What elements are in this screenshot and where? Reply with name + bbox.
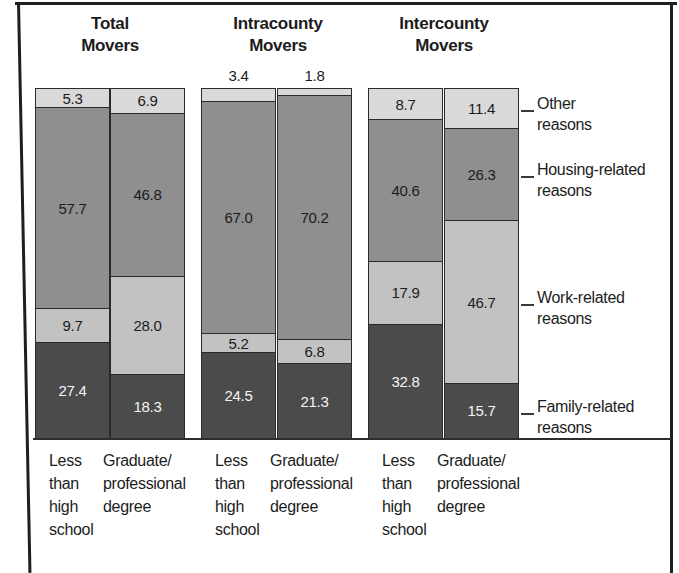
segment-value-label-above-bar: 1.8: [277, 67, 352, 84]
bar-segment: 17.9: [368, 261, 443, 325]
stacked-bar: 6.946.828.018.3: [110, 88, 185, 439]
segment-value-label: 6.9: [138, 93, 158, 108]
stacked-bar: 67.05.224.5: [201, 88, 276, 439]
x-axis-category-label: Less than high school: [215, 449, 259, 541]
bar-segment: 46.8: [110, 113, 185, 277]
stacked-bar: 11.426.346.715.7: [444, 88, 519, 439]
bar-segment: 57.7: [35, 107, 110, 308]
segment-value-label: 67.0: [225, 210, 253, 225]
segment-value-label: 9.7: [63, 318, 83, 333]
bar-segment: 5.3: [35, 88, 110, 108]
segment-value-label: 28.0: [134, 318, 162, 333]
frame-left-border: [17, 2, 31, 573]
frame-right-border: [670, 2, 673, 573]
segment-value-label: 5.2: [229, 336, 249, 351]
segment-value-label: 27.4: [59, 383, 87, 398]
segment-value-label: 6.8: [305, 344, 325, 359]
legend-tick: [521, 413, 534, 415]
bar-segment: 70.2: [277, 95, 352, 340]
bar-segment: 27.4: [35, 342, 110, 439]
bar-segment: 8.7: [368, 88, 443, 120]
bar-segment: 9.7: [35, 308, 110, 344]
bar-segment: 40.6: [368, 119, 443, 261]
legend-label: Work-related reasons: [537, 287, 625, 329]
bar-segment: 26.3: [444, 128, 519, 221]
segment-value-label: 46.7: [468, 295, 496, 310]
figure: Total Movers Intracounty Movers Intercou…: [0, 0, 679, 573]
segment-value-label: 5.3: [63, 91, 83, 106]
bar-segment: 32.8: [368, 324, 443, 439]
bar-segment: 24.5: [201, 352, 276, 439]
x-axis-category-label: Graduate/ professional degree: [103, 449, 186, 518]
legend-tick: [521, 176, 534, 178]
segment-value-label: 17.9: [392, 285, 420, 300]
stacked-bar: 8.740.617.932.8: [368, 88, 443, 439]
segment-value-label: 70.2: [301, 210, 329, 225]
segment-value-label: 26.3: [468, 167, 496, 182]
legend-tick: [521, 110, 534, 112]
bar-segment: 46.7: [444, 220, 519, 383]
bar-segment: 28.0: [110, 276, 185, 375]
stacked-bar: 5.357.79.727.4: [35, 88, 110, 439]
legend-label: Other reasons: [537, 93, 592, 135]
bar-segment: 15.7: [444, 383, 519, 439]
bar-segment: [201, 88, 276, 102]
segment-value-label: 46.8: [134, 187, 162, 202]
x-axis-category-label: Graduate/ professional degree: [270, 449, 353, 518]
segment-value-label: 57.7: [59, 201, 87, 216]
legend-label: Family-related reasons: [537, 396, 634, 438]
segment-value-label: 32.8: [392, 374, 420, 389]
segment-value-label-above-bar: 3.4: [201, 67, 276, 84]
legend-label: Housing-related reasons: [537, 159, 645, 201]
x-axis-category-label: Graduate/ professional degree: [437, 449, 520, 518]
bar-segment: 6.9: [110, 88, 185, 114]
segment-value-label: 8.7: [396, 97, 416, 112]
frame-top-border: [15, 2, 677, 5]
segment-value-label: 11.4: [468, 101, 495, 116]
bar-segment: 11.4: [444, 88, 519, 129]
segment-value-label: 15.7: [468, 403, 496, 418]
bar-segment: 5.2: [201, 333, 276, 353]
legend-tick: [521, 304, 534, 306]
segment-value-label: 24.5: [225, 388, 253, 403]
group-title-intracounty-movers: Intracounty Movers: [233, 13, 322, 57]
group-title-total-movers: Total Movers: [81, 13, 139, 57]
x-axis-category-label: Less than high school: [49, 449, 93, 541]
bar-segment: 21.3: [277, 363, 352, 439]
bar-segment: 6.8: [277, 339, 352, 365]
segment-value-label: 40.6: [392, 183, 420, 198]
stacked-bar: 70.26.821.3: [277, 88, 352, 439]
x-axis-category-label: Less than high school: [382, 449, 426, 541]
bar-segment: 18.3: [110, 374, 185, 439]
segment-value-label: 21.3: [301, 394, 329, 409]
bar-segment: 67.0: [201, 101, 276, 335]
segment-value-label: 18.3: [134, 399, 162, 414]
group-title-intercounty-movers: Intercounty Movers: [399, 13, 488, 57]
